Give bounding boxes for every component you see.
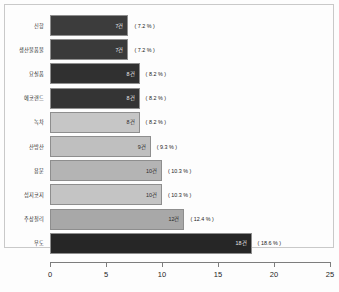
bar: 8건 [50,88,140,109]
x-axis-line [50,262,330,263]
percent-label: ( 10.3 % ) [168,168,191,174]
bar-row: 녹차8건( 8.2 % ) [0,112,339,133]
bar-row: 요실품8건( 8.2 % ) [0,63,339,84]
bar: 7건 [50,39,128,60]
percent-label: ( 8.2 % ) [146,119,166,125]
category-label: 용문 [0,168,44,174]
bar-value-label: 7건 [115,23,123,29]
category-label: 우도 [0,240,44,246]
category-label: 요실품 [0,71,44,77]
axis-tick-label: 15 [214,270,222,279]
bar: 10건 [50,184,162,205]
percent-label: ( 8.2 % ) [146,71,166,77]
axis-tick [162,262,163,267]
bar-value-label: 8건 [127,119,135,125]
bar-rows-container: 신항7건( 7.2 % )생산물품물7건( 7.2 % )요실품8건( 8.2 … [0,0,339,248]
axis-tick [218,262,219,267]
bar-value-label: 10건 [146,168,157,174]
percent-label: ( 7.2 % ) [134,23,154,29]
bar: 18건 [50,233,252,254]
axis-tick [50,262,51,267]
category-label: 신항 [0,23,44,29]
bar-row: 용문10건( 10.3 % ) [0,160,339,181]
bar-row: 주상절리12건( 12.4 % ) [0,209,339,230]
axis-tick-label: 0 [48,270,52,279]
axis-tick-label: 20 [270,270,278,279]
bar-row: 생산물품물7건( 7.2 % ) [0,39,339,60]
percent-label: ( 9.3 % ) [157,144,177,150]
bar-value-label: 8건 [127,71,135,77]
axis-tick [274,262,275,267]
bar: 9건 [50,136,151,157]
category-label: 에코랜드 [0,95,44,101]
percent-label: ( 8.2 % ) [146,95,166,101]
bar-value-label: 8건 [127,95,135,101]
category-label: 주상절리 [0,216,44,222]
bar-row: 신항7건( 7.2 % ) [0,15,339,36]
axis-tick [106,262,107,267]
bar-row: 섭지코지10건( 10.3 % ) [0,184,339,205]
bar-value-label: 9건 [138,144,146,150]
bar-row: 산방산9건( 9.3 % ) [0,136,339,157]
bar-chart: 신항7건( 7.2 % )생산물품물7건( 7.2 % )요실품8건( 8.2 … [0,0,339,292]
axis-tick-label: 5 [104,270,108,279]
axis-tick-label: 25 [326,270,334,279]
axis-tick-label: 10 [158,270,166,279]
bar: 12건 [50,209,184,230]
category-label: 생산물품물 [0,47,44,53]
percent-label: ( 18.6 % ) [258,240,281,246]
category-label: 녹차 [0,119,44,125]
percent-label: ( 12.4 % ) [190,216,213,222]
percent-label: ( 10.3 % ) [168,192,191,198]
bar-row: 우도18건( 18.6 % ) [0,233,339,254]
axis-tick [330,262,331,267]
bar-value-label: 10건 [146,192,157,198]
bar-row: 에코랜드8건( 8.2 % ) [0,88,339,109]
category-label: 섭지코지 [0,192,44,198]
bar: 8건 [50,112,140,133]
bar: 8건 [50,63,140,84]
bar-value-label: 18건 [236,240,247,246]
category-label: 산방산 [0,144,44,150]
bar: 7건 [50,15,128,36]
bar-value-label: 7건 [115,47,123,53]
bar: 10건 [50,160,162,181]
bar-value-label: 12건 [168,216,179,222]
percent-label: ( 7.2 % ) [134,47,154,53]
